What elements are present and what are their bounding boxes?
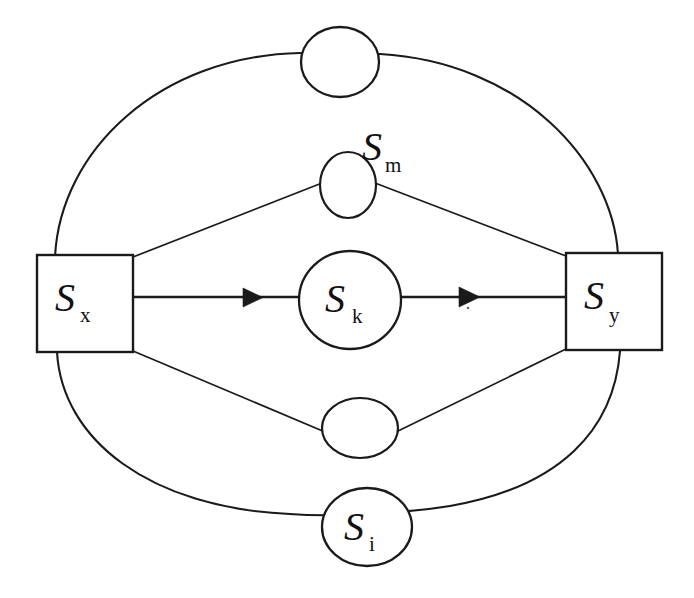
edge-sx-to-sm-line: [133, 183, 322, 257]
node-top-empty-circle[interactable]: [301, 27, 379, 97]
arrowhead-sk-to-sy-icon: [459, 287, 480, 307]
node-sm[interactable]: S m: [320, 124, 401, 218]
edge-lower-circle-to-sy-line: [396, 349, 566, 432]
node-sx-subscript: x: [80, 303, 91, 327]
node-sk-subscript: k: [352, 304, 363, 328]
node-sy-label: S: [584, 273, 604, 318]
edge-sx-to-lower-circle-line: [133, 351, 325, 432]
node-sy[interactable]: S y: [566, 253, 662, 350]
ink-speck-mark: [467, 307, 470, 310]
edge-sm-to-sy-line: [375, 183, 566, 256]
node-si-shape[interactable]: [322, 488, 412, 566]
node-sy-shape[interactable]: [566, 253, 662, 350]
node-si[interactable]: S i: [322, 488, 412, 566]
node-si-label: S: [344, 504, 364, 549]
node-sy-subscript: y: [609, 303, 620, 327]
arrowhead-sx-to-sk-icon: [243, 288, 263, 307]
top-empty-circle-shape[interactable]: [301, 27, 379, 97]
diagram-svg: S m S k S i S x S y: [0, 0, 694, 598]
node-sm-label: S: [362, 124, 382, 169]
node-si-subscript: i: [369, 532, 375, 556]
node-sk[interactable]: S k: [299, 251, 401, 349]
node-sx[interactable]: S x: [37, 255, 133, 352]
node-sx-label: S: [55, 275, 75, 320]
lower-empty-circle-shape[interactable]: [322, 398, 398, 458]
diagram-canvas: S m S k S i S x S y: [0, 0, 694, 598]
node-sm-subscript: m: [385, 153, 401, 177]
node-lower-empty-circle[interactable]: [322, 398, 398, 458]
node-sk-label: S: [325, 276, 345, 321]
node-sk-shape[interactable]: [299, 251, 401, 349]
